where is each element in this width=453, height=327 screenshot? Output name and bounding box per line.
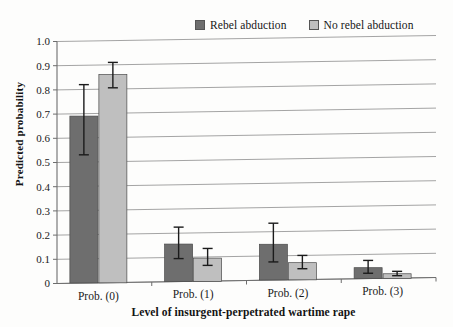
y-tick-label: 0.7 — [36, 108, 50, 120]
y-tick-label: 0 — [45, 277, 51, 289]
y-tick-label: 0.2 — [36, 229, 50, 241]
legend-label: Rebel abduction — [210, 19, 287, 31]
y-tick-label: 0.9 — [36, 60, 50, 72]
y-tick-label: 0.5 — [36, 156, 50, 168]
chart-plot-area: 00.10.20.30.40.50.60.70.80.91.0Prob. (0)… — [0, 0, 453, 327]
y-tick-label: 0.6 — [36, 132, 50, 144]
legend-label: No rebel abduction — [324, 19, 414, 31]
bar — [99, 74, 127, 282]
x-axis-title-text: Level of insurgent-perpetrated wartime r… — [131, 306, 355, 318]
legend-swatch-icon — [195, 20, 205, 30]
x-tick-label: Prob. (0) — [78, 290, 119, 303]
x-tick-label: Prob. (2) — [267, 287, 308, 300]
y-axis-title: Predicted probability — [13, 44, 25, 224]
y-tick-label: 0.4 — [36, 181, 50, 193]
legend-item-no-rebel-abduction: No rebel abduction — [309, 19, 414, 31]
legend-item-rebel-abduction: Rebel abduction — [195, 19, 287, 31]
y-gridline — [57, 36, 436, 42]
legend-swatch-icon — [309, 20, 319, 30]
chart-legend: Rebel abduction No rebel abduction — [195, 15, 445, 35]
chart-figure: Rebel abduction No rebel abduction Predi… — [0, 0, 453, 327]
x-axis-title: Level of insurgent-perpetrated wartime r… — [0, 306, 453, 318]
x-tick-label: Prob. (1) — [173, 288, 214, 301]
y-tick-label: 0.1 — [36, 253, 50, 265]
x-tick-label: Prob. (3) — [362, 285, 403, 298]
y-tick-label: 0.3 — [36, 205, 50, 217]
y-tick-label: 1.0 — [36, 35, 50, 47]
y-tick-label: 0.8 — [36, 84, 50, 96]
